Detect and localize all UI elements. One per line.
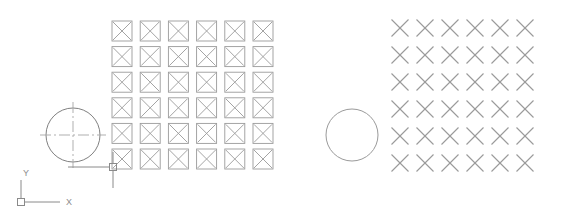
- array-cell[interactable]: [225, 149, 245, 169]
- array-cell[interactable]: [225, 47, 245, 67]
- array-cell[interactable]: [197, 149, 217, 169]
- array-cell[interactable]: [225, 98, 245, 118]
- x-mark-array[interactable]: [392, 20, 534, 172]
- array-cell[interactable]: [225, 21, 245, 41]
- array-cell[interactable]: [112, 149, 132, 169]
- x-mark[interactable]: [392, 20, 409, 37]
- x-mark[interactable]: [517, 155, 534, 172]
- array-cell[interactable]: [140, 72, 160, 92]
- x-mark[interactable]: [417, 128, 434, 145]
- x-mark[interactable]: [492, 101, 509, 118]
- ucs-origin-box: [18, 199, 25, 206]
- array-cell[interactable]: [140, 47, 160, 67]
- x-mark[interactable]: [467, 47, 484, 64]
- array-cell[interactable]: [253, 149, 273, 169]
- x-mark[interactable]: [442, 74, 459, 91]
- x-mark[interactable]: [442, 101, 459, 118]
- x-mark[interactable]: [417, 74, 434, 91]
- x-mark[interactable]: [442, 155, 459, 172]
- x-mark[interactable]: [442, 20, 459, 37]
- x-mark[interactable]: [442, 47, 459, 64]
- x-mark[interactable]: [392, 128, 409, 145]
- array-cell[interactable]: [253, 72, 273, 92]
- array-cell[interactable]: [253, 123, 273, 143]
- array-cell[interactable]: [168, 149, 188, 169]
- x-mark[interactable]: [417, 101, 434, 118]
- x-mark[interactable]: [392, 74, 409, 91]
- x-mark[interactable]: [467, 101, 484, 118]
- x-mark[interactable]: [392, 47, 409, 64]
- x-mark[interactable]: [417, 47, 434, 64]
- x-mark[interactable]: [442, 128, 459, 145]
- x-mark[interactable]: [392, 155, 409, 172]
- x-mark[interactable]: [417, 155, 434, 172]
- x-mark[interactable]: [517, 20, 534, 37]
- x-mark[interactable]: [492, 47, 509, 64]
- array-cell[interactable]: [112, 72, 132, 92]
- array-cell[interactable]: [225, 123, 245, 143]
- x-mark[interactable]: [417, 20, 434, 37]
- array-cell[interactable]: [197, 98, 217, 118]
- array-cell[interactable]: [253, 47, 273, 67]
- array-cell[interactable]: [112, 47, 132, 67]
- x-mark[interactable]: [517, 101, 534, 118]
- array-cell[interactable]: [225, 72, 245, 92]
- x-mark[interactable]: [467, 128, 484, 145]
- x-mark[interactable]: [517, 128, 534, 145]
- array-cell[interactable]: [168, 123, 188, 143]
- array-cell[interactable]: [168, 21, 188, 41]
- array-cell[interactable]: [197, 123, 217, 143]
- array-cell[interactable]: [140, 149, 160, 169]
- array-cell[interactable]: [253, 98, 273, 118]
- x-mark[interactable]: [492, 155, 509, 172]
- crosshair-cursor[interactable]: [68, 152, 117, 188]
- target-circle[interactable]: [326, 109, 378, 161]
- array-cell[interactable]: [112, 21, 132, 41]
- array-cell[interactable]: [168, 98, 188, 118]
- x-mark[interactable]: [467, 74, 484, 91]
- array-cell[interactable]: [168, 47, 188, 67]
- x-mark[interactable]: [467, 155, 484, 172]
- square-array[interactable]: [112, 21, 273, 169]
- array-cell[interactable]: [140, 98, 160, 118]
- source-circle[interactable]: [40, 102, 106, 168]
- array-cell[interactable]: [197, 21, 217, 41]
- x-mark[interactable]: [392, 101, 409, 118]
- x-mark[interactable]: [467, 20, 484, 37]
- ucs-y-axis-label: Y: [23, 168, 29, 178]
- x-mark[interactable]: [492, 128, 509, 145]
- array-cell[interactable]: [168, 72, 188, 92]
- ucs-x-axis-label: X: [66, 197, 72, 207]
- array-cell[interactable]: [253, 21, 273, 41]
- x-mark[interactable]: [492, 20, 509, 37]
- cad-drawing-canvas[interactable]: X Y: [0, 0, 567, 216]
- array-cell[interactable]: [140, 21, 160, 41]
- array-cell[interactable]: [197, 47, 217, 67]
- array-cell[interactable]: [112, 98, 132, 118]
- array-cell[interactable]: [112, 123, 132, 143]
- array-cell[interactable]: [140, 123, 160, 143]
- x-mark[interactable]: [492, 74, 509, 91]
- cad-drawing-svg: X Y: [0, 0, 567, 216]
- ucs-axis-icon: X Y: [18, 168, 73, 207]
- array-cell[interactable]: [197, 72, 217, 92]
- x-mark[interactable]: [517, 47, 534, 64]
- x-mark[interactable]: [517, 74, 534, 91]
- circle-outline[interactable]: [326, 109, 378, 161]
